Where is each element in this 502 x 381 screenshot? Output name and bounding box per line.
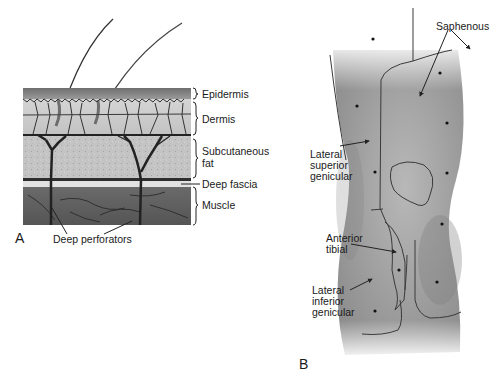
panel-letter-b: B [299,357,308,371]
label-dermis: Dermis [202,114,235,125]
muscle-layer [23,187,191,225]
panel-letter-a: A [15,231,24,245]
label-lateral-inferior-genicular-3: genicular [312,307,355,318]
label-epidermis: Epidermis [202,89,249,100]
label-deep-fascia: Deep fascia [202,179,257,190]
label-muscle: Muscle [202,200,235,211]
deep-fascia-layer [23,181,191,187]
label-deep-perforators: Deep perforators [53,234,132,245]
skin-section-illustration [23,19,191,225]
epidermis-layer [23,88,191,99]
label-anterior-tibial-2: tibial [326,244,348,255]
label-lateral-superior-genicular-3: genicular [310,171,353,182]
label-subcutaneous: Subcutaneous [202,146,269,157]
label-fat: fat [202,158,214,169]
figure-canvas [0,0,502,381]
label-saphenous: Saphenous [436,21,489,32]
